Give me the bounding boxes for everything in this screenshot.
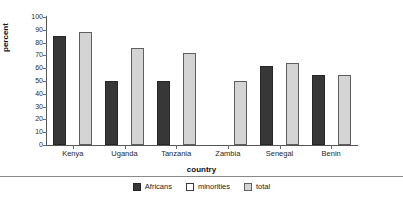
bar <box>260 66 273 145</box>
x-axis-tick-label: Senegal <box>254 149 306 158</box>
bar-group <box>305 17 357 145</box>
legend-label: minorities <box>198 182 230 191</box>
x-axis-tick-label: Uganda <box>99 149 151 158</box>
legend-swatch-icon <box>186 183 194 191</box>
x-axis-line <box>46 145 358 146</box>
bar-group <box>202 17 254 145</box>
y-axis-tick-mark <box>43 145 47 146</box>
x-axis-tick-label: Tanzania <box>150 149 202 158</box>
y-axis-title: percent <box>1 23 10 52</box>
x-axis-title: country <box>0 165 403 174</box>
bar-group <box>47 17 99 145</box>
y-axis-tick-label: 30 <box>35 102 43 111</box>
bar <box>105 81 118 145</box>
bar <box>286 63 299 145</box>
legend-divider <box>0 176 403 177</box>
legend-label: total <box>256 182 270 191</box>
bar <box>157 81 170 145</box>
legend-item: total <box>244 182 270 191</box>
x-axis-tick-label: Benin <box>305 149 357 158</box>
chart-legend: Africansminoritiestotal <box>0 182 403 191</box>
bar <box>131 48 144 145</box>
legend-item: minorities <box>186 182 230 191</box>
bar <box>53 36 66 145</box>
legend-label: Africans <box>145 182 172 191</box>
y-axis-tick-label: 70 <box>35 50 43 59</box>
bar-group <box>150 17 202 145</box>
bar <box>208 143 221 145</box>
y-axis-tick-label: 50 <box>35 76 43 85</box>
y-axis-tick-label: 60 <box>35 63 43 72</box>
legend-item: Africans <box>133 182 172 191</box>
bar <box>338 75 351 145</box>
plot-area: 0102030405060708090100 <box>47 17 357 145</box>
y-axis-tick-label: 20 <box>35 114 43 123</box>
y-axis-tick-label: 10 <box>35 127 43 136</box>
bar-group <box>254 17 306 145</box>
bar-chart: percent 0102030405060708090100 KenyaUgan… <box>0 0 403 203</box>
bar-group <box>99 17 151 145</box>
bar <box>183 53 196 145</box>
y-axis-tick-label: 80 <box>35 38 43 47</box>
y-axis-tick-label: 40 <box>35 89 43 98</box>
legend-swatch-icon <box>133 183 141 191</box>
x-axis-tick-label: Kenya <box>47 149 99 158</box>
bar <box>79 32 92 145</box>
bar-groups <box>47 17 357 145</box>
x-axis-tick-label: Zambia <box>202 149 254 158</box>
legend-swatch-icon <box>244 183 252 191</box>
bar <box>234 81 247 145</box>
y-axis-tick-label: 90 <box>35 25 43 34</box>
y-axis-tick-label: 100 <box>31 12 43 21</box>
bar <box>312 75 325 145</box>
